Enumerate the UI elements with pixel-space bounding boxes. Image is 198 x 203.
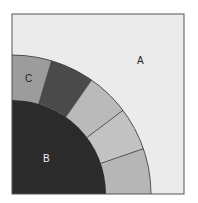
label-b: B — [43, 153, 50, 164]
label-a: A — [137, 55, 144, 66]
quarter-circle-diagram: A B C — [0, 0, 198, 203]
label-c: C — [25, 73, 32, 84]
